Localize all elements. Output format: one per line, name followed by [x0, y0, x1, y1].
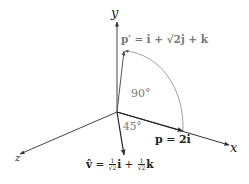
p-label: p = 2i — [155, 134, 191, 145]
p-symbol: p — [155, 133, 163, 146]
z-axis-label: z — [15, 153, 20, 163]
x-axis-label: x — [230, 141, 237, 154]
p-prime-symbol: p′ — [121, 33, 131, 45]
v-hat-plus: + — [121, 158, 136, 170]
p-rhs: 2i — [179, 133, 191, 146]
z-axis — [20, 112, 117, 154]
vector-rotation-diagram — [0, 0, 249, 184]
p-prime-eq: = — [131, 33, 146, 45]
p-prime-rhs: i + √2j + k — [147, 33, 209, 45]
v-hat-coef-1: 1√2 — [109, 158, 117, 171]
axis-angle-label: 45° — [123, 121, 142, 132]
rotation-angle-label: 90° — [131, 88, 151, 99]
p-prime-vector — [117, 51, 124, 112]
y-axis-label: y — [111, 6, 118, 19]
v-hat-vector — [117, 112, 124, 155]
v-hat-eq: = — [92, 158, 107, 170]
v-hat-label: v̂ = 1√2i + 1√2k — [86, 158, 154, 171]
p-prime-label: p′ = i + √2j + k — [121, 34, 208, 45]
p-eq: = — [163, 133, 179, 146]
v-hat-term-k: k — [146, 158, 153, 170]
v-hat-coef-2: 1√2 — [138, 158, 146, 171]
